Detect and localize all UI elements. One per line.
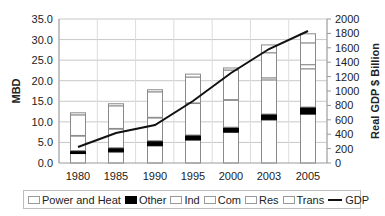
legend-line-swatch — [328, 199, 342, 201]
x-tick-label: 1990 — [143, 170, 167, 182]
bar-segment-power-and-heat — [148, 146, 163, 163]
bar-segment-trans — [301, 34, 316, 43]
bar-segment-trans — [186, 74, 201, 77]
bars: 1980198519901995200020032005 — [66, 34, 320, 182]
legend-swatch — [125, 196, 137, 204]
bar-segment-other — [148, 141, 163, 146]
y-right-tick-label: 0 — [335, 157, 341, 169]
legend-label: Res — [259, 194, 279, 206]
bar-segment-com — [301, 65, 316, 69]
legend-swatch — [204, 196, 216, 204]
y-tick-label: 35.0 — [32, 13, 53, 25]
y-right-tick-label: 2000 — [335, 13, 359, 25]
bar-segment-res — [301, 43, 316, 65]
y-right-tick-label: 1600 — [335, 42, 359, 54]
x-tick-label: 1980 — [66, 170, 90, 182]
legend-swatch — [170, 196, 182, 204]
bar-segment-res — [109, 106, 124, 129]
legend-label: GDP — [345, 194, 369, 206]
bar-segment-res — [262, 53, 277, 78]
y-right-tick-label: 1400 — [335, 56, 359, 68]
legend-item-power-and-heat: Power and Heat — [28, 194, 121, 206]
legend-label: Com — [218, 194, 241, 206]
x-tick-label: 1985 — [104, 170, 128, 182]
legend-item-other: Other — [125, 194, 167, 206]
y-tick-label: 5.0 — [38, 136, 53, 148]
bar-segment-res — [186, 77, 201, 103]
bar-segment-ind — [71, 136, 86, 151]
legend-label: Power and Heat — [42, 194, 121, 206]
x-tick-label: 2003 — [257, 170, 281, 182]
bar-segment-ind — [262, 80, 277, 114]
legend-item-trans: Trans — [283, 194, 325, 206]
y-right-tick-label: 1200 — [335, 71, 359, 83]
bar-segment-ind — [224, 100, 239, 127]
y-right-tick-label: 1000 — [335, 85, 359, 97]
legend-item-res: Res — [245, 194, 279, 206]
bar-segment-power-and-heat — [301, 114, 316, 163]
legend-item-gdp: GDP — [328, 194, 369, 206]
legend-item-com: Com — [204, 194, 241, 206]
x-tick-label: 1995 — [181, 170, 205, 182]
bar-segment-res — [148, 92, 163, 118]
y-tick-label: 10.0 — [32, 116, 53, 128]
bar-segment-power-and-heat — [186, 140, 201, 163]
bar-segment-res — [224, 70, 239, 100]
bar-segment-other — [301, 107, 316, 114]
bar-segment-res — [71, 115, 86, 136]
legend-swatch — [28, 196, 40, 204]
bar-segment-power-and-heat — [262, 120, 277, 163]
y-right-tick-label: 200 — [335, 143, 353, 155]
y-right-tick-label: 600 — [335, 114, 353, 126]
y-tick-label: 0.0 — [38, 157, 53, 169]
bar-segment-other — [186, 135, 201, 140]
bar-segment-other — [109, 148, 124, 152]
x-tick-label: 2005 — [296, 170, 320, 182]
bar-segment-trans — [148, 90, 163, 92]
y-right-tick-label: 400 — [335, 128, 353, 140]
y-right-tick-label: 1800 — [335, 27, 359, 39]
y-axis-title-left: MBD — [10, 78, 22, 103]
bar-segment-power-and-heat — [109, 152, 124, 163]
bar-segment-ind — [301, 69, 316, 107]
bar-segment-ind — [186, 103, 201, 135]
legend-label: Other — [139, 194, 167, 206]
legend-label: Trans — [297, 194, 325, 206]
legend-swatch — [283, 196, 295, 204]
y-tick-label: 15.0 — [32, 95, 53, 107]
bar-segment-trans — [71, 113, 86, 115]
bar-segment-other — [224, 127, 239, 132]
legend-label: Ind — [184, 194, 199, 206]
legend: Power and HeatOtherIndComResTransGDP — [23, 190, 361, 209]
legend-item-ind: Ind — [170, 194, 199, 206]
chart: 0.05.010.015.020.025.030.035.0 198019851… — [0, 0, 385, 190]
y-tick-label: 25.0 — [32, 54, 53, 66]
y-tick-label: 20.0 — [32, 75, 53, 87]
bar-segment-other — [262, 114, 277, 120]
bar-segment-power-and-heat — [224, 132, 239, 163]
x-tick-label: 2000 — [219, 170, 243, 182]
bar-segment-trans — [109, 104, 124, 106]
bar-segment-power-and-heat — [71, 154, 86, 163]
y-axis-title-right: Real GDP $ Billion — [369, 43, 381, 139]
y-right-tick-label: 800 — [335, 99, 353, 111]
legend-swatch — [245, 196, 257, 204]
y-tick-label: 30.0 — [32, 34, 53, 46]
